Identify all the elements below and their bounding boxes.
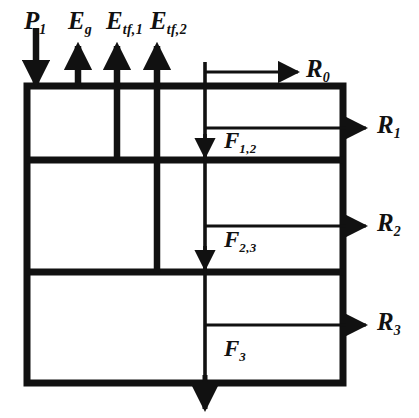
label-p1: P1 xyxy=(24,8,47,33)
label-etf1: Etf,1 xyxy=(106,8,143,33)
label-f23: F2,3 xyxy=(224,228,257,251)
label-etf2: Etf,2 xyxy=(150,8,187,33)
diagram-graphics xyxy=(0,0,419,418)
label-f12: F1,2 xyxy=(224,129,257,152)
label-r3: R3 xyxy=(377,309,401,334)
label-r0: R0 xyxy=(306,56,330,81)
label-f3: F3 xyxy=(224,337,246,360)
label-r1: R1 xyxy=(377,112,401,137)
diagram-canvas: P1 Eg Etf,1 Etf,2 R0 R1 R2 R3 F1,2 F2,3 … xyxy=(0,0,419,418)
label-r2: R2 xyxy=(377,210,401,235)
label-eg: Eg xyxy=(68,8,92,33)
control-volume-outline xyxy=(27,86,343,383)
layer-dividers xyxy=(27,160,343,272)
